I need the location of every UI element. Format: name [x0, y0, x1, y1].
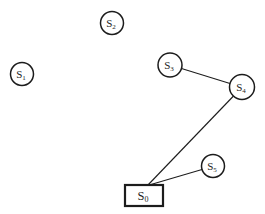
node-S0: S0 [125, 185, 163, 206]
node-S5: S5 [202, 155, 225, 178]
node-S1: S1 [11, 63, 34, 86]
node-S2: S2 [101, 12, 124, 35]
edge-S3-S4 [182, 69, 231, 84]
node-S3: S3 [158, 53, 182, 77]
diagram-figure: S2S1S3S4S5S0 [0, 0, 265, 214]
state-graph-canvas: S2S1S3S4S5S0 [0, 0, 265, 214]
node-S4: S4 [230, 75, 255, 100]
